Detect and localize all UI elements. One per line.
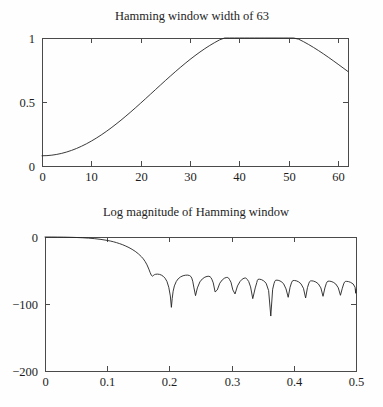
plot-area-bottom: 00.10.20.30.40.5−200−1000 [12, 231, 364, 390]
y-tick-label-top: 0.5 [19, 96, 35, 110]
x-tick-label-bottom: 0.3 [225, 375, 241, 389]
x-tick-label-top: 10 [85, 170, 98, 184]
plot-area-top: 010203040506000.51 [19, 32, 348, 185]
y-tick-label-top: 0 [29, 160, 35, 174]
y-tick-label-bottom: −200 [12, 365, 38, 379]
hamming-window-time-plot: Hamming window width of 63 0102030405060… [0, 0, 383, 196]
figure-container: Hamming window width of 63 0102030405060… [0, 0, 383, 407]
x-tick-label-top: 30 [184, 170, 197, 184]
chart-title-top: Hamming window width of 63 [115, 9, 269, 23]
chart-panel-hamming-window-time: Hamming window width of 63 0102030405060… [0, 0, 383, 196]
x-tick-label-bottom: 0.1 [100, 375, 116, 389]
hamming-window-log-magnitude-plot: Log magnitude of Hamming window 00.10.20… [0, 196, 383, 407]
x-tick-label-top: 60 [332, 170, 345, 184]
x-tick-label-bottom: 0 [42, 375, 48, 389]
chart-title-bottom: Log magnitude of Hamming window [103, 205, 289, 219]
x-tick-label-bottom: 0.4 [287, 375, 303, 389]
x-tick-label-top: 20 [135, 170, 148, 184]
data-curve-top [42, 38, 348, 156]
y-tick-label-bottom: 0 [32, 231, 38, 245]
x-tick-label-top: 40 [233, 170, 246, 184]
y-tick-label-top: 1 [29, 32, 35, 46]
x-tick-label-top: 50 [283, 170, 296, 184]
chart-panel-hamming-window-log-magnitude: Log magnitude of Hamming window 00.10.20… [0, 196, 383, 407]
y-tick-label-bottom: −100 [12, 298, 38, 312]
data-curve-bottom [45, 237, 356, 316]
x-tick-label-bottom: 0.2 [162, 375, 178, 389]
x-tick-label-bottom: 0.5 [349, 375, 365, 389]
x-tick-label-top: 0 [39, 170, 45, 184]
